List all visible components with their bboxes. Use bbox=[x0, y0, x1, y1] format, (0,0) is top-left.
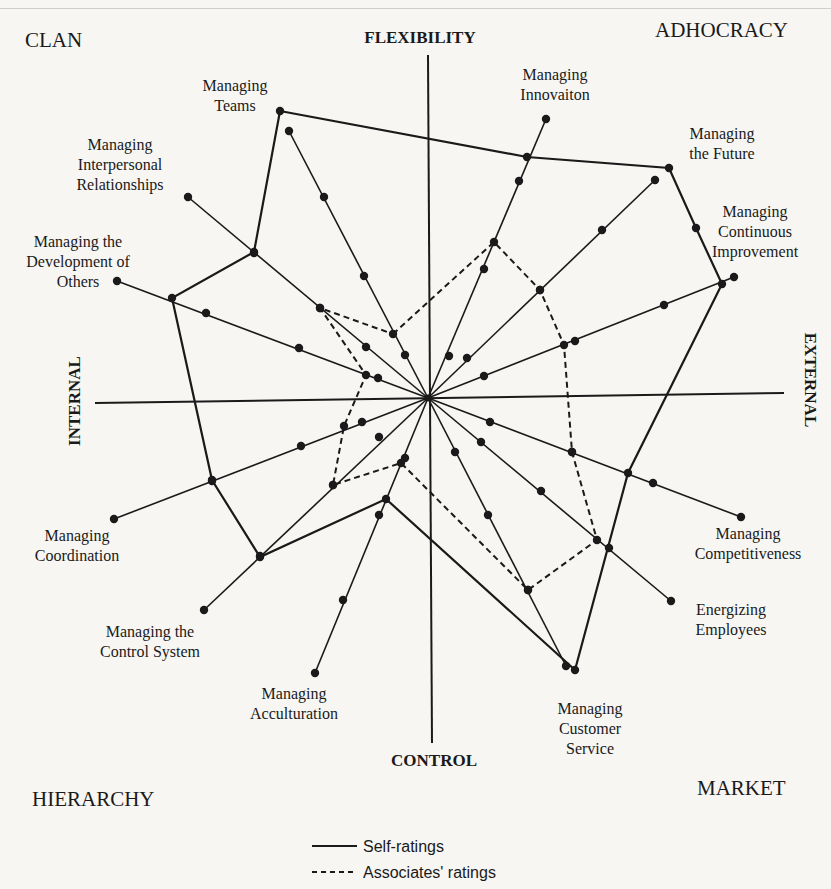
data-point-dot bbox=[339, 596, 347, 604]
data-point-dot bbox=[297, 442, 305, 450]
horizontal-axis bbox=[95, 393, 784, 403]
spoke-line bbox=[188, 197, 428, 398]
label-managing-the-future: Managingthe Future bbox=[689, 125, 754, 162]
data-point-dot bbox=[524, 586, 532, 594]
data-point-dot bbox=[624, 469, 632, 477]
data-point-dot bbox=[285, 127, 293, 135]
axes-lines bbox=[95, 55, 784, 743]
data-point-dot bbox=[537, 487, 545, 495]
data-point-dot bbox=[718, 280, 726, 288]
axis-label-control: CONTROL bbox=[391, 751, 477, 770]
data-point-dot bbox=[320, 193, 328, 201]
quadrant-market: MARKET bbox=[697, 776, 786, 800]
data-point-dot bbox=[401, 351, 409, 359]
data-point-dot bbox=[477, 438, 485, 446]
data-point-dot bbox=[276, 107, 284, 115]
data-point-dot bbox=[486, 418, 494, 426]
data-point-dot bbox=[562, 662, 570, 670]
label-managing-innovation: ManagingInnovaiton bbox=[520, 66, 589, 103]
data-point-dot bbox=[515, 177, 523, 185]
axis-label-external: EXTERNAL bbox=[801, 333, 820, 427]
data-point-dot bbox=[568, 448, 576, 456]
data-point-dot bbox=[375, 433, 383, 441]
center-point bbox=[425, 395, 432, 402]
axis-label-internal: INTERNAL bbox=[65, 356, 84, 446]
data-point-dot bbox=[523, 153, 531, 161]
data-point-dot bbox=[184, 193, 192, 201]
data-point-dot bbox=[451, 448, 459, 456]
data-point-dot bbox=[374, 374, 382, 382]
data-point-dot bbox=[113, 277, 121, 285]
data-point-dot bbox=[463, 354, 471, 362]
data-point-dot bbox=[362, 371, 370, 379]
spoke-line bbox=[204, 398, 428, 610]
data-point-dot bbox=[200, 606, 208, 614]
data-point-dot bbox=[311, 669, 319, 677]
data-point-dot bbox=[480, 265, 488, 273]
data-point-dot bbox=[542, 115, 550, 123]
data-point-dot bbox=[316, 304, 324, 312]
data-point-dot bbox=[660, 301, 668, 309]
data-point-dot bbox=[329, 481, 337, 489]
data-point-dot bbox=[598, 226, 606, 234]
spoke-line bbox=[428, 398, 566, 666]
label-managing-customer-service: ManagingCustomerService bbox=[558, 700, 623, 757]
data-point-dot bbox=[605, 544, 613, 552]
data-point-dot bbox=[340, 422, 348, 430]
spoke-dots bbox=[110, 107, 745, 677]
quadrant-hierarchy: HIERARCHY bbox=[32, 787, 155, 811]
data-point-dot bbox=[737, 513, 745, 521]
data-point-dot bbox=[649, 479, 657, 487]
data-point-dot bbox=[536, 286, 544, 294]
quadrant-adhocracy: ADHOCRACY bbox=[655, 18, 788, 42]
label-energizing-employees: EnergizingEmployees bbox=[695, 601, 766, 639]
label-managing-acculturation: ManagingAcculturation bbox=[250, 685, 338, 722]
data-point-dot bbox=[389, 330, 397, 338]
data-point-dot bbox=[484, 511, 492, 519]
legend: Self-ratings Associates' ratings bbox=[312, 838, 496, 881]
data-point-dot bbox=[295, 344, 303, 352]
spoke-line bbox=[315, 398, 428, 673]
data-point-dot bbox=[593, 536, 601, 544]
label-managing-interpersonal-relationships: ManagingInterpersonalRelationships bbox=[76, 136, 163, 194]
spoke-line bbox=[428, 398, 741, 517]
data-point-dot bbox=[445, 352, 453, 360]
data-point-dot bbox=[375, 511, 383, 519]
data-point-dot bbox=[667, 597, 675, 605]
spoke-line bbox=[428, 277, 734, 398]
data-point-dot bbox=[571, 666, 579, 674]
data-point-dot bbox=[490, 238, 498, 246]
data-point-dot bbox=[382, 495, 390, 503]
data-point-dot bbox=[202, 309, 210, 317]
data-point-dot bbox=[358, 418, 366, 426]
legend-self-ratings: Self-ratings bbox=[363, 838, 444, 855]
data-point-dot bbox=[692, 224, 700, 232]
axis-label-flexibility: FLEXIBILITY bbox=[364, 28, 475, 47]
data-point-dot bbox=[665, 164, 673, 172]
data-point-dot bbox=[651, 176, 659, 184]
data-point-dot bbox=[730, 273, 738, 281]
data-point-dot bbox=[560, 341, 568, 349]
data-point-dot bbox=[250, 248, 258, 256]
data-point-dot bbox=[360, 272, 368, 280]
quadrant-clan: CLAN bbox=[25, 28, 82, 52]
data-point-dot bbox=[480, 372, 488, 380]
associates-ratings-polygon bbox=[320, 242, 597, 590]
label-managing-teams: ManagingTeams bbox=[203, 77, 268, 114]
data-point-dot bbox=[397, 459, 405, 467]
data-point-dot bbox=[168, 294, 176, 302]
data-point-dot bbox=[362, 343, 370, 351]
data-point-dot bbox=[110, 515, 118, 523]
label-managing-control-system: Managing theControl System bbox=[100, 623, 201, 661]
label-managing-competitiveness: ManagingCompetitiveness bbox=[695, 525, 802, 563]
data-point-dot bbox=[571, 337, 579, 345]
competing-values-radar-chart: CLAN ADHOCRACY HIERARCHY MARKET FLEXIBIL… bbox=[0, 0, 831, 889]
legend-associates-ratings: Associates' ratings bbox=[363, 864, 496, 881]
data-point-dot bbox=[208, 476, 216, 484]
label-managing-continuous-improvement: ManagingContinuousImprovement bbox=[712, 203, 799, 261]
data-point-dot bbox=[256, 553, 264, 561]
label-managing-coordination: ManagingCoordination bbox=[35, 527, 119, 564]
